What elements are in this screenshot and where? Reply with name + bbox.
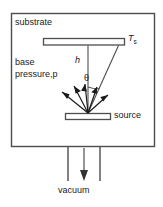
flux-arrow-group bbox=[62, 84, 108, 113]
substrate-temperature-subscript: s bbox=[134, 38, 137, 45]
flux-arrow-1-head bbox=[62, 92, 70, 99]
source-plate-rect bbox=[66, 114, 111, 120]
pressure-label: pressure,p bbox=[15, 70, 58, 79]
substrate-temperature-label: Ts bbox=[128, 34, 137, 46]
vacuum-deposition-diagram: substrate base pressure,p Ts h θ source … bbox=[0, 0, 163, 207]
diagram-canvas bbox=[0, 0, 163, 207]
substrate-plate-rect bbox=[44, 39, 125, 46]
vacuum-label: vacuum bbox=[58, 186, 90, 195]
pressure-label-text: pressure, bbox=[15, 69, 53, 79]
base-label: base bbox=[15, 58, 35, 67]
angle-arc bbox=[88, 87, 100, 89]
angle-line bbox=[88, 46, 119, 114]
vacuum-arrow-head bbox=[80, 170, 88, 181]
substrate-label: substrate bbox=[15, 18, 52, 27]
angle-label: θ bbox=[84, 74, 89, 83]
flux-arrow-3-head bbox=[81, 84, 87, 91]
source-label: source bbox=[114, 111, 141, 120]
flux-arrow-2-head bbox=[74, 86, 81, 94]
height-label: h bbox=[75, 56, 80, 65]
pressure-symbol: p bbox=[53, 69, 58, 79]
